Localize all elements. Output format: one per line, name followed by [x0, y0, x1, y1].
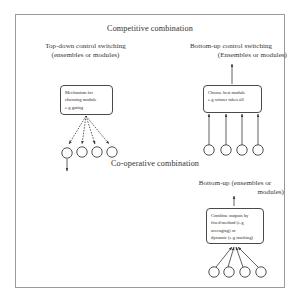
- box-gating-mechanism: Mechanism for choosing module e.g gating: [60, 85, 113, 115]
- section-heading-bottom-up-switching-line1: Bottom-up control switching: [175, 42, 287, 51]
- diagram-title-competitive: Competitive combination: [15, 24, 285, 34]
- section-heading-top-down-line2: (ensembles or modules): [28, 51, 143, 60]
- section-heading-bottom-up-line2: modules): [186, 188, 284, 197]
- box-combine-outputs: Combine outputs by fixed method (e.g ave…: [206, 208, 264, 244]
- section-heading-bottom-up-switching-line2: (Ensembles or modules): [175, 51, 287, 60]
- box-choose-best-module: Choose best module e.g winner takes all: [203, 85, 262, 113]
- diagram-figure: Competitive combination Co-operative com…: [0, 0, 301, 307]
- diagram-title-cooperative: Co-operative combination: [95, 159, 215, 169]
- section-heading-bottom-up-line1: Bottom-up (ensembles or: [186, 179, 284, 188]
- section-heading-top-down-line1: Top-down control switching: [28, 42, 143, 51]
